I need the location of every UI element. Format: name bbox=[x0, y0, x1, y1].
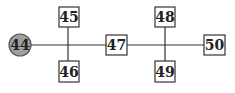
node-49-label: 49 bbox=[155, 64, 174, 80]
node-50-label: 50 bbox=[205, 37, 225, 53]
node-46-label: 46 bbox=[59, 64, 78, 80]
node-44-label: 44 bbox=[10, 37, 30, 53]
node-44[interactable]: 44 bbox=[9, 34, 31, 56]
node-50[interactable]: 50 bbox=[204, 35, 225, 55]
node-46[interactable]: 46 bbox=[59, 61, 79, 82]
tree-diagram: 44 45 46 47 48 49 50 bbox=[0, 0, 235, 93]
node-45[interactable]: 45 bbox=[59, 7, 79, 27]
node-48-label: 48 bbox=[155, 9, 174, 25]
node-49[interactable]: 49 bbox=[155, 61, 175, 82]
node-45-label: 45 bbox=[59, 9, 78, 25]
node-47[interactable]: 47 bbox=[106, 35, 127, 55]
node-48[interactable]: 48 bbox=[155, 7, 175, 27]
node-47-label: 47 bbox=[107, 37, 126, 53]
